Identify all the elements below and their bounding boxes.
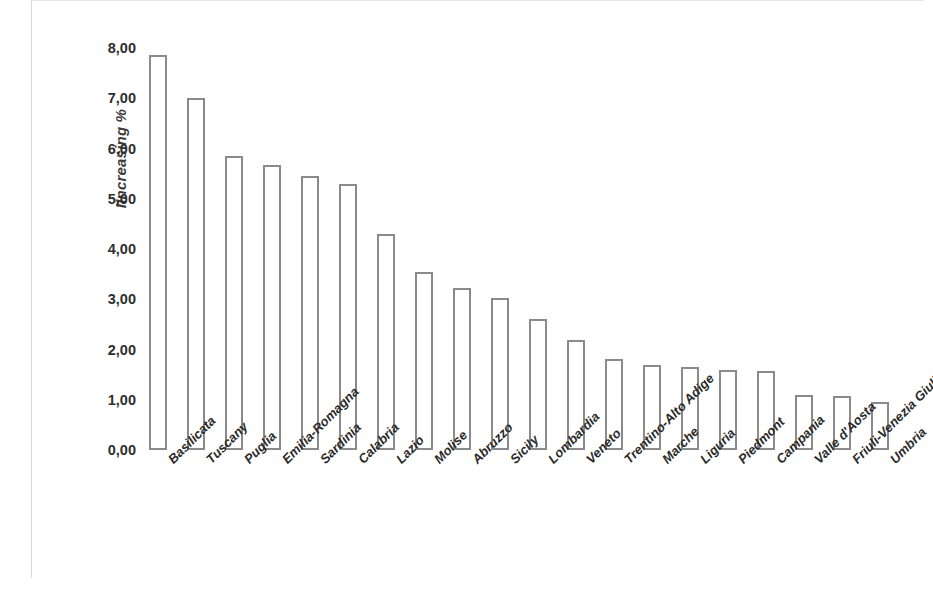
bar-slot — [444, 48, 482, 450]
bar-slot — [634, 48, 672, 450]
x-axis-tick-label: Liguria — [697, 456, 708, 467]
bar[interactable] — [187, 98, 205, 450]
plot-area — [140, 48, 900, 450]
y-axis-tick-label: 6,00 — [84, 141, 136, 157]
y-axis-tick-label: 5,00 — [84, 191, 136, 207]
bar-slot — [558, 48, 596, 450]
x-axis-tick-label: Campania — [773, 456, 784, 467]
bar[interactable] — [149, 55, 167, 450]
x-axis-tick-label: Calabria — [355, 456, 366, 467]
bar-slot — [292, 48, 330, 450]
x-axis-tick-label: Marche — [659, 456, 670, 467]
bar[interactable] — [453, 288, 471, 450]
y-axis-tick-label: 3,00 — [84, 291, 136, 307]
x-axis-tick-label: Sardinia — [317, 456, 328, 467]
bar[interactable] — [225, 156, 243, 450]
bar[interactable] — [415, 272, 433, 450]
x-axis-tick-label: Piedmont — [735, 456, 746, 467]
bar[interactable] — [377, 234, 395, 450]
bar-slot — [786, 48, 824, 450]
x-axis-tick-label: Lazio — [393, 456, 404, 467]
bar-slot — [254, 48, 292, 450]
x-axis-tick-label: Molise — [431, 456, 442, 467]
y-axis-tick-label: 1,00 — [84, 392, 136, 408]
bar-slot — [520, 48, 558, 450]
x-axis-tick-label: Puglia — [241, 456, 252, 467]
chart-screenshot: IIncreasing % 8,007,006,005,004,003,002,… — [0, 0, 933, 605]
y-axis-tick-label: 8,00 — [84, 40, 136, 56]
bar[interactable] — [301, 176, 319, 450]
bar-slot — [596, 48, 634, 450]
x-axis-tick-label: Trentino-Alto Adige — [621, 456, 632, 467]
x-axis-tick-label: Emilia-Romagna — [279, 456, 290, 467]
bar-slot — [824, 48, 862, 450]
bar-slot — [140, 48, 178, 450]
y-axis-tick-label: 2,00 — [84, 342, 136, 358]
x-axis-tick-labels: BasilicataTuscanyPugliaEmilia-RomagnaSar… — [140, 450, 900, 600]
bar-slot — [368, 48, 406, 450]
x-axis-tick-label: Friuli-Venezia Giulia — [849, 456, 860, 467]
bar-slot — [710, 48, 748, 450]
y-axis-tick-label: 7,00 — [84, 90, 136, 106]
bar-slot — [406, 48, 444, 450]
x-axis-tick-label: Tuscany — [203, 456, 214, 467]
x-axis-tick-label: Basilicata — [165, 456, 176, 467]
x-axis-tick-label: Veneto — [583, 456, 594, 467]
bar[interactable] — [263, 165, 281, 450]
x-axis-tick-label: Sicily — [507, 456, 518, 467]
x-axis-tick-label: Lombardia — [545, 456, 556, 467]
bar-slot — [862, 48, 900, 450]
x-axis-tick-label: Umbria — [887, 456, 898, 467]
bar-slot — [748, 48, 786, 450]
y-axis-tick-label: 0,00 — [84, 442, 136, 458]
bar-slot — [216, 48, 254, 450]
x-axis-tick-label: Abruzzo — [469, 456, 480, 467]
y-axis-tick-labels: 8,007,006,005,004,003,002,001,000,00 — [84, 40, 136, 460]
bar-slot — [178, 48, 216, 450]
bar-slot — [482, 48, 520, 450]
y-axis-tick-label: 4,00 — [84, 241, 136, 257]
bar[interactable] — [529, 319, 547, 450]
x-axis-tick-label: Valle d'Aosta — [811, 456, 822, 467]
